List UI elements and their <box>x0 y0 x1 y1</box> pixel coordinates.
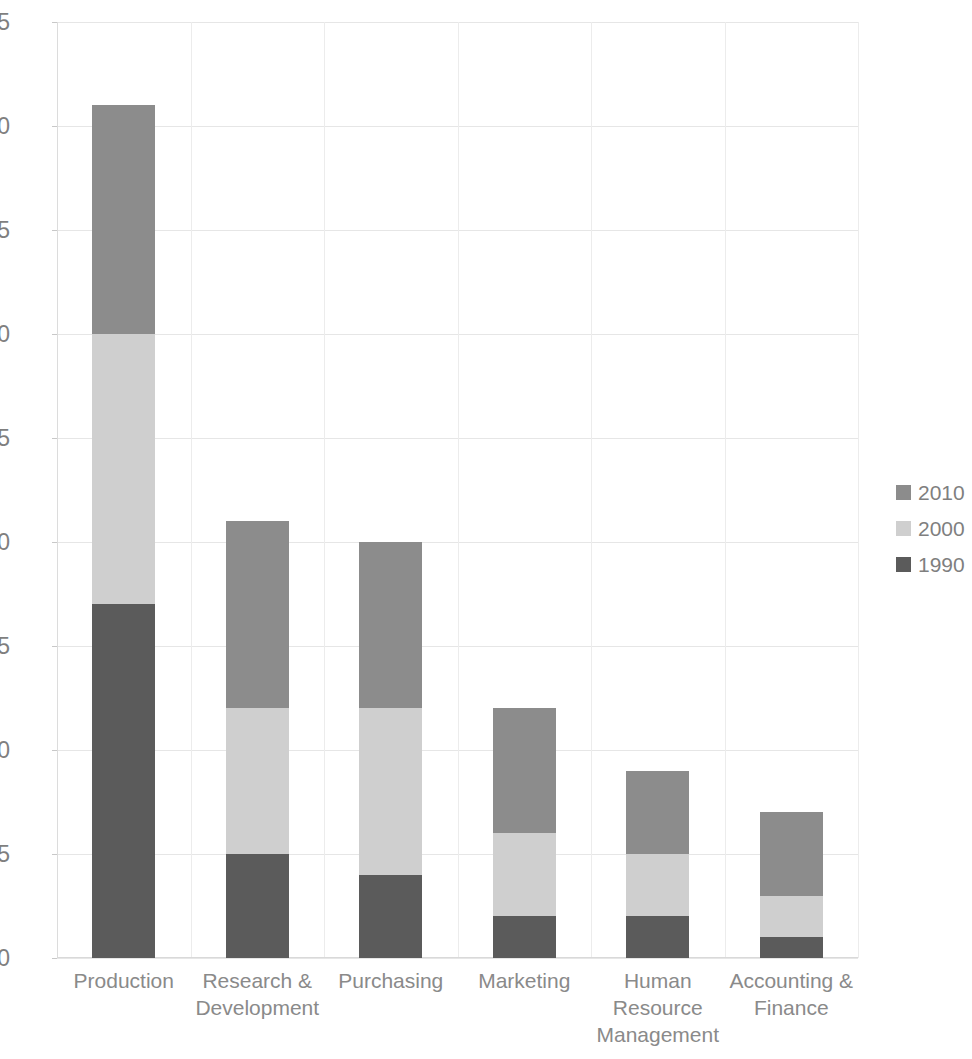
y-axis-label-10: 10 <box>0 739 10 762</box>
bar-segment-2010[interactable] <box>359 542 422 708</box>
y-axis-label-5: 5 <box>0 843 10 866</box>
tick-mark-5 <box>52 854 57 855</box>
legend-label: 2010 <box>918 482 965 503</box>
bar-segment-2010[interactable] <box>760 812 823 895</box>
tick-mark-0 <box>52 958 57 959</box>
bar-segment-2000[interactable] <box>493 833 556 916</box>
stacked-bar-chart: 051015202530354045 ProductionResearch & … <box>0 0 972 1059</box>
legend-label: 1990 <box>918 554 965 575</box>
tick-mark-10 <box>52 750 57 751</box>
tick-mark-35 <box>52 230 57 231</box>
legend-item-1990[interactable]: 1990 <box>896 546 972 582</box>
bar-segment-1990[interactable] <box>226 854 289 958</box>
bar-segment-2000[interactable] <box>626 854 689 916</box>
y-axis-label-30: 30 <box>0 323 10 346</box>
gridline-x-2 <box>324 22 325 958</box>
gridline-x-4 <box>591 22 592 958</box>
gridline-x-3 <box>458 22 459 958</box>
x-axis-label: Production <box>49 968 199 995</box>
x-axis-label: Purchasing <box>316 968 466 995</box>
bar-segment-2000[interactable] <box>760 896 823 938</box>
legend-item-2010[interactable]: 2010 <box>896 474 972 510</box>
tick-mark-40 <box>52 126 57 127</box>
legend-item-2000[interactable]: 2000 <box>896 510 972 546</box>
legend-swatch-icon <box>896 485 911 500</box>
bar-segment-2010[interactable] <box>493 708 556 833</box>
bar-segment-1990[interactable] <box>626 916 689 958</box>
y-axis-label-25: 25 <box>0 427 10 450</box>
y-axis-label-45: 45 <box>0 11 10 34</box>
x-axis-label: Human Resource Management <box>583 968 733 1049</box>
legend-swatch-icon <box>896 557 911 572</box>
bar-segment-2000[interactable] <box>92 334 155 604</box>
bar-segment-2010[interactable] <box>626 771 689 854</box>
legend-swatch-icon <box>896 521 911 536</box>
x-axis-label: Accounting & Finance <box>717 968 867 1022</box>
legend-label: 2000 <box>918 518 965 539</box>
y-axis-label-15: 15 <box>0 635 10 658</box>
plot-area <box>57 22 858 958</box>
tick-mark-45 <box>52 22 57 23</box>
gridline-x-6 <box>858 22 859 958</box>
y-axis-label-20: 20 <box>0 531 10 554</box>
y-axis-label-0: 0 <box>0 947 10 970</box>
bar-segment-2000[interactable] <box>226 708 289 854</box>
tick-mark-20 <box>52 542 57 543</box>
x-axis-line <box>57 957 858 958</box>
gridline-x-1 <box>191 22 192 958</box>
y-axis-line <box>57 22 58 958</box>
x-axis-label: Marketing <box>450 968 600 995</box>
y-axis-label-40: 40 <box>0 115 10 138</box>
tick-mark-25 <box>52 438 57 439</box>
bar-segment-1990[interactable] <box>92 604 155 958</box>
tick-mark-15 <box>52 646 57 647</box>
y-axis-label-35: 35 <box>0 219 10 242</box>
gridline-y-0 <box>57 958 858 959</box>
bar-segment-2010[interactable] <box>92 105 155 334</box>
gridline-x-5 <box>725 22 726 958</box>
bar-segment-2010[interactable] <box>226 521 289 708</box>
chart-legend: 201020001990 <box>896 474 972 582</box>
bar-segment-2000[interactable] <box>359 708 422 874</box>
bar-segment-1990[interactable] <box>359 875 422 958</box>
tick-mark-30 <box>52 334 57 335</box>
bar-segment-1990[interactable] <box>493 916 556 958</box>
x-axis-label: Research & Development <box>183 968 333 1022</box>
bar-segment-1990[interactable] <box>760 937 823 958</box>
